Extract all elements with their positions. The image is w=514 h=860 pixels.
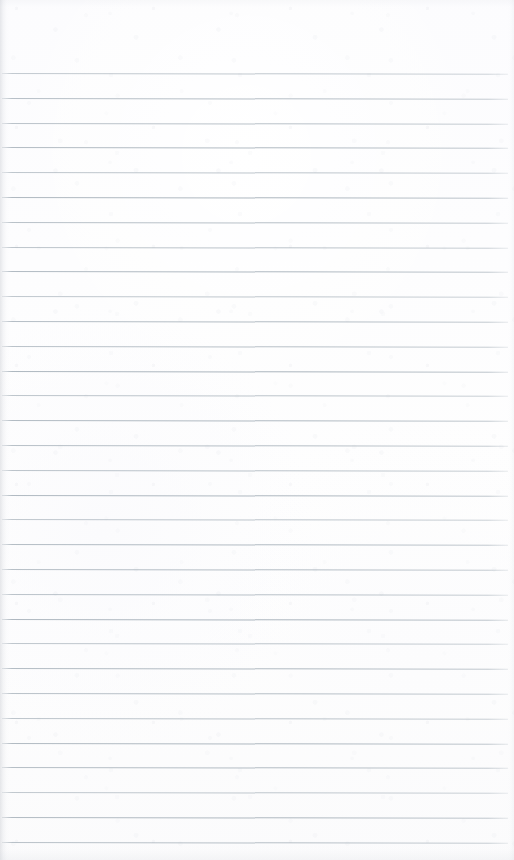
writing-area[interactable]: [2, 73, 508, 843]
notepad-page: [0, 0, 514, 860]
